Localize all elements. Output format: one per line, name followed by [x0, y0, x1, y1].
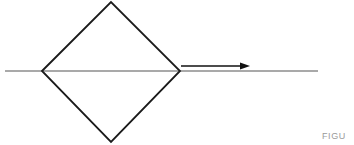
diamond-outline: [42, 2, 180, 142]
direction-arrow-head: [240, 63, 250, 70]
figure-canvas: FIGU: [0, 0, 354, 145]
figure-caption: FIGU: [322, 131, 354, 142]
figure-diagram: [0, 0, 354, 145]
